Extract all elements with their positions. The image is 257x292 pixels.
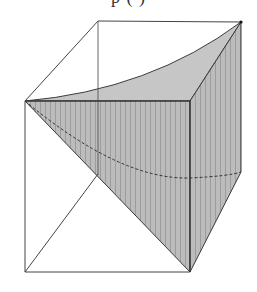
cube-diagram — [0, 0, 257, 292]
front-striped-face — [25, 101, 190, 272]
edge-back-top — [98, 21, 241, 22]
edge-bottom-left-diag — [25, 174, 98, 272]
apex-point — [239, 20, 242, 23]
edge-top-left-diag — [25, 21, 98, 101]
